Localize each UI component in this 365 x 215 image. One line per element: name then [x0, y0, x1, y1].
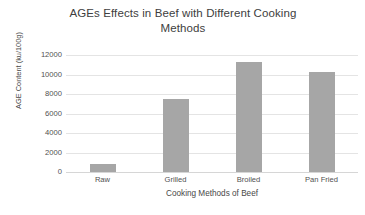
- x-axis-tick-labels: RawGrilledBroiledPan Fried: [66, 175, 358, 187]
- bar: [163, 99, 189, 172]
- gridline: [66, 172, 358, 173]
- y-tick-label: 6000: [26, 110, 62, 118]
- y-tick-label: 8000: [26, 90, 62, 98]
- bars: [66, 55, 358, 172]
- bar: [236, 62, 262, 172]
- plot-area: [66, 55, 358, 172]
- bar-chart: AGEs Effects in Beef with Different Cook…: [0, 0, 365, 215]
- x-tick-label: Raw: [63, 175, 143, 184]
- y-tick-label: 2000: [26, 149, 62, 157]
- y-tick-label: 4000: [26, 129, 62, 137]
- x-tick-label: Pan Fried: [282, 175, 362, 184]
- y-tick-label: 10000: [26, 71, 62, 79]
- bar: [90, 164, 116, 172]
- y-axis-title: AGE Content (ku/100g): [14, 19, 23, 123]
- y-tick-label: 0: [26, 168, 62, 176]
- y-tick-label: 12000: [26, 51, 62, 59]
- chart-title: AGEs Effects in Beef with Different Cook…: [28, 6, 338, 36]
- y-axis-tick-labels: 020004000600080001000012000: [24, 55, 62, 172]
- x-axis-title: Cooking Methods of Beef: [66, 189, 358, 198]
- x-tick-label: Broiled: [209, 175, 289, 184]
- bar: [309, 72, 335, 172]
- x-tick-label: Grilled: [136, 175, 216, 184]
